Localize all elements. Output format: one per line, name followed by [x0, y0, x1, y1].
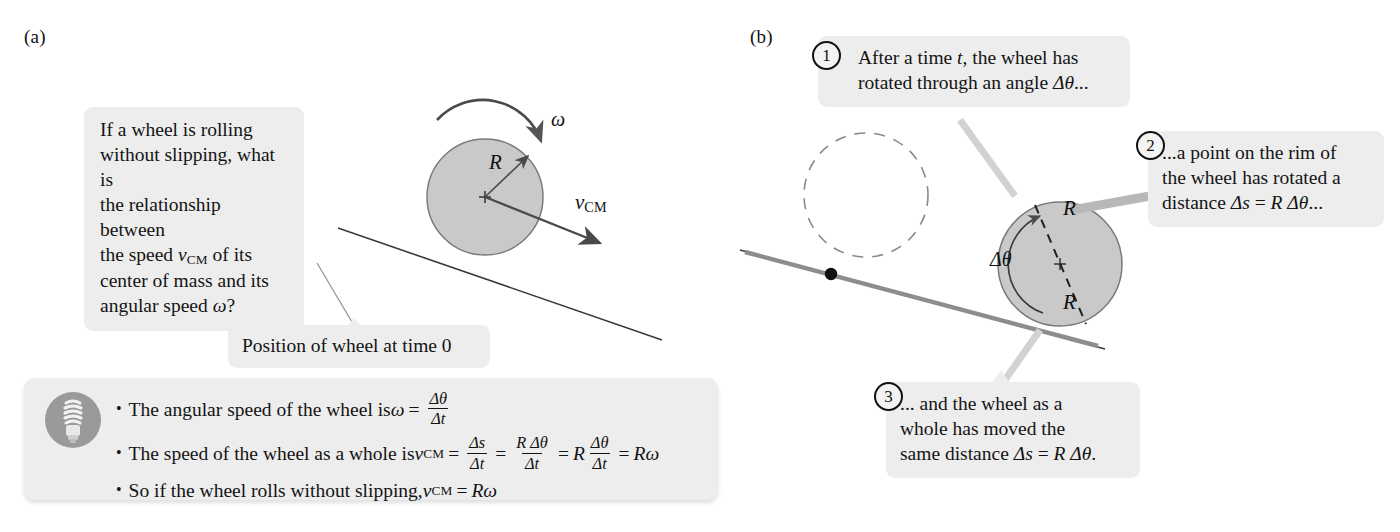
step1-leader-line: [960, 120, 1015, 196]
delta-theta-label-b: Δθ: [990, 248, 1012, 271]
step2-line-1: ...a point on the rim of: [1162, 141, 1370, 166]
radius-bottom-label-b: R: [1063, 290, 1076, 315]
step2-line-3: distance Δs = R Δθ...: [1162, 191, 1370, 216]
panel-b-drawing: [0, 0, 1400, 532]
step3-line-3: same distance Δs = R Δθ.: [900, 442, 1126, 467]
step3-callout-tail: [992, 370, 1010, 383]
step2-line-2: the wheel has rotated a: [1162, 166, 1370, 191]
step3-line-2: whole has moved the: [900, 417, 1126, 442]
step1-number-badge: 1: [812, 41, 841, 70]
radius-top-label-b: R: [1063, 196, 1076, 221]
step2-leader-line: [1072, 196, 1150, 210]
step2-number-badge: 2: [1136, 131, 1165, 160]
step3-callout: ... and the wheel as a whole has moved t…: [886, 382, 1140, 478]
step3-line-1: ... and the wheel as a: [900, 392, 1126, 417]
step1-callout-tail: [930, 93, 950, 107]
step1-line-1: After a time t, the wheel has: [858, 46, 1116, 71]
step1-callout: After a time t, the wheel has rotated th…: [818, 36, 1130, 107]
step2-callout: ...a point on the rim of the wheel has r…: [1148, 131, 1384, 227]
rolling-wheel-figure: (a) R ω vCM: [0, 0, 1400, 532]
ghost-wheel-circle: [804, 133, 928, 257]
step3-number-badge: 3: [874, 382, 903, 411]
contact-point-dot: [825, 268, 837, 280]
step1-line-2: rotated through an angle Δθ...: [858, 71, 1116, 96]
